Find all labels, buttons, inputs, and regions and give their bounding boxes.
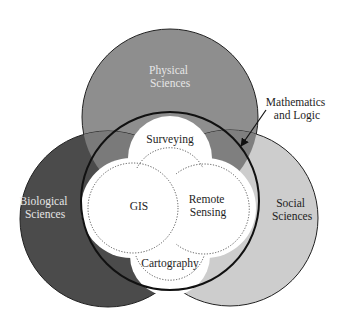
geospatial-venn-diagram: Physical Sciences Biological Sciences So… xyxy=(0,0,340,322)
social-sciences-label: Social Sciences xyxy=(272,197,313,222)
math-logic-label: Mathematics and Logic xyxy=(266,96,328,122)
cartography-label: Cartography xyxy=(141,257,199,270)
remote-sensing-label: Remote Sensing xyxy=(189,193,228,219)
surveying-label: Surveying xyxy=(146,133,194,146)
gis-label: GIS xyxy=(130,200,149,212)
biological-sciences-label: Biological Sciences xyxy=(20,195,71,220)
physical-sciences-label: Physical Sciences xyxy=(149,64,191,89)
